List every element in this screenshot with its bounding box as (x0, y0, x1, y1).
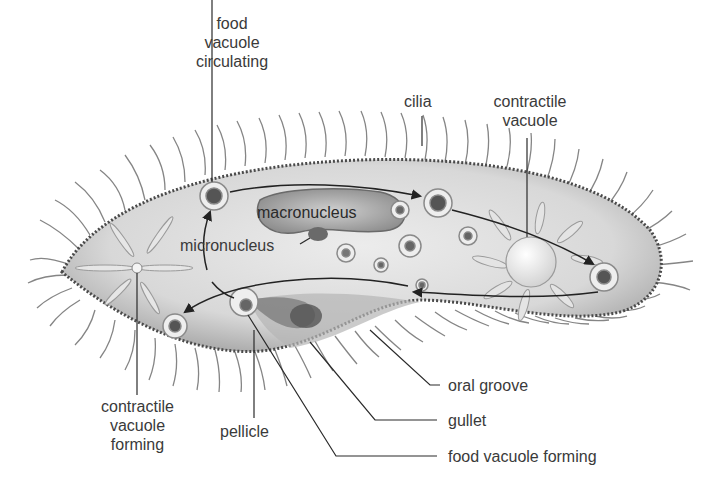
micronucleus-shape (308, 227, 328, 241)
gullet-dark (290, 304, 322, 328)
label-food-vacuole-forming: food vacuole forming (448, 447, 597, 466)
label-line-3: forming (90, 435, 185, 454)
label-line-3: circulating (196, 52, 268, 71)
label-contractile-vacuole-forming: contractile vacuole forming (90, 397, 185, 454)
label-line-2: vacuole (485, 111, 575, 130)
label-food-vacuole-circulating: food vacuole circulating (196, 14, 268, 71)
label-line-2: vacuole (196, 33, 268, 52)
label-line-1: food (196, 14, 268, 33)
label-micronucleus: micronucleus (180, 236, 274, 255)
label-macronucleus: macronucleus (257, 203, 357, 222)
label-pellicle: pellicle (220, 422, 269, 441)
label-cilia: cilia (404, 92, 432, 111)
label-line-1: contractile (90, 397, 185, 416)
label-oral-groove: oral groove (448, 376, 528, 395)
label-line-1: contractile (485, 92, 575, 111)
label-gullet: gullet (448, 411, 486, 430)
label-contractile-vacuole: contractile vacuole (485, 92, 575, 130)
label-line-2: vacuole (90, 416, 185, 435)
